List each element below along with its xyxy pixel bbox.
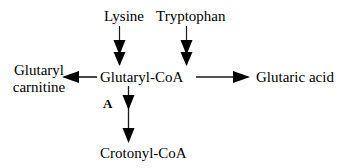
- arrow-tryptophan-to-glutaryl-coa: [181, 26, 193, 66]
- arrow-lysine-to-glutaryl-coa: [114, 26, 126, 66]
- arrow-glutaryl-coa-to-crotonyl-coa: [123, 86, 135, 143]
- arrow-glutaryl-coa-to-glutaric-acid: [196, 71, 250, 83]
- arrow-glutaryl-coa-to-glutaryl-carnitine: [62, 71, 97, 83]
- pathway-diagram: Lysine Tryptophan Glutaryl carnitine Glu…: [0, 0, 352, 168]
- arrow-layer: [0, 0, 352, 168]
